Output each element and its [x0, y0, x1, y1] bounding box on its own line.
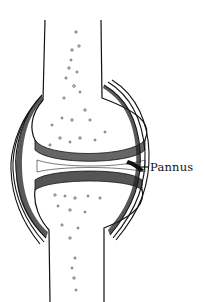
pannus-label: Pannus	[150, 160, 193, 174]
lower-bone	[35, 176, 143, 302]
joint-illustration	[0, 0, 205, 302]
upper-bone	[32, 20, 147, 155]
